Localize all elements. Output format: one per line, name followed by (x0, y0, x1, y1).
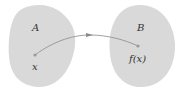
set-b-label: B (136, 22, 144, 33)
function-mapping-diagram: A B x f(x) (0, 0, 185, 96)
arrowhead-icon (86, 33, 93, 37)
point-fx (136, 44, 139, 47)
point-x (33, 53, 36, 56)
point-x-label: x (32, 61, 38, 72)
point-fx-label: f(x) (128, 53, 146, 64)
set-b-region (109, 5, 175, 87)
set-a-region (9, 5, 76, 87)
set-a-label: A (31, 22, 39, 33)
